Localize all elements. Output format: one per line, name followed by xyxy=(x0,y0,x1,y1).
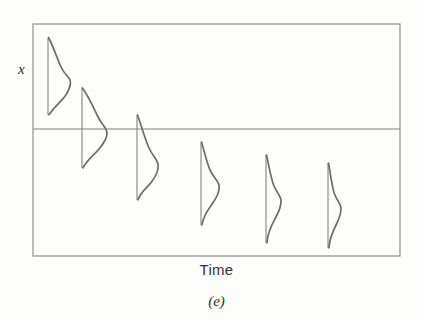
x-axis-label-wrap: Time xyxy=(0,261,423,278)
x-axis-label: Time xyxy=(200,261,234,278)
panel-caption: (e) xyxy=(208,293,225,310)
y-axis-label: x xyxy=(18,62,25,77)
plot-frame xyxy=(33,24,400,256)
panel-caption-wrap: (e) xyxy=(0,293,423,310)
figure-panel-e: x Time (e) xyxy=(0,0,423,322)
